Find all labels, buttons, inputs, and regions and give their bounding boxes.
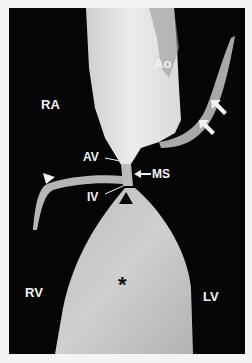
label-lv: LV bbox=[203, 290, 219, 303]
label-ra: RA bbox=[41, 98, 60, 111]
label-av: AV bbox=[83, 151, 99, 164]
label-rv: RV bbox=[25, 286, 43, 299]
label-ao: Ao bbox=[154, 57, 171, 70]
specimen-photo: Ao RA AV MS IV RV LV * bbox=[9, 8, 245, 354]
asterisk-marker: * bbox=[118, 274, 127, 296]
label-iv: IV bbox=[87, 191, 98, 204]
label-ms: MS bbox=[152, 168, 170, 181]
